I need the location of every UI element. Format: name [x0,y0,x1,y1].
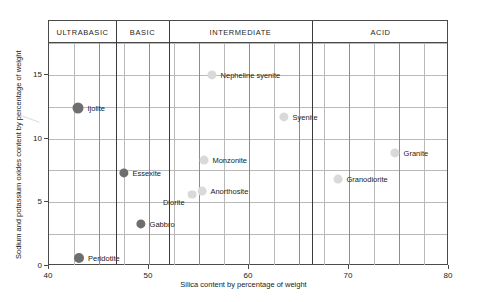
data-point-label-monzonite: Monzonite [212,156,247,165]
rock-class-band-label: ULTRABASIC [56,28,108,37]
data-point-gabbro[interactable] [136,219,145,228]
y-axis-tick [44,201,48,202]
x-axis-tick-label: 60 [244,271,253,280]
x-axis-tick [348,265,349,269]
data-point-label-nepheline-syenite: Nepheline syenite [221,70,281,79]
data-point-peridotite[interactable] [74,253,84,263]
rock-class-band-basic: BASIC [116,21,169,43]
y-axis-tick-label: 5 [24,197,42,206]
data-point-granodiorite[interactable] [334,175,343,184]
data-point-label-syenite: Syenite [293,112,318,121]
rock-class-band-ultrabasic: ULTRABASIC [49,21,116,43]
data-point-ijolite[interactable] [73,102,84,113]
rock-class-band-label: INTERMEDIATE [210,28,272,37]
rock-class-band-label: ACID [370,28,390,37]
y-axis-title: Sodium and potassium oxides content by p… [14,51,23,259]
y-axis-tick [44,138,48,139]
rock-class-divider-3 [312,21,313,264]
x-axis-tick-label: 50 [144,271,153,280]
x-axis-tick-label: 40 [44,271,53,280]
x-axis-tick [248,265,249,269]
y-axis-tick-label: 0 [24,261,42,270]
data-point-label-diorite: Diorite [163,197,185,206]
data-point-label-ijolite: Ijolite [88,103,106,112]
data-point-granite[interactable] [390,148,399,157]
data-point-anorthosite[interactable] [198,186,207,195]
data-point-label-granodiorite: Granodiorite [346,175,387,184]
rock-class-band-acid: ACID [312,21,449,43]
x-axis-tick-label: 70 [344,271,353,280]
rock-class-band-row: ULTRABASICBASICINTERMEDIATEACID [49,21,447,43]
data-point-monzonite[interactable] [200,156,209,165]
x-axis-title: Silica content by percentage of weight [0,280,487,289]
y-axis-tick [44,74,48,75]
data-point-label-gabbro: Gabbro [150,219,175,228]
x-axis-tick-label: 80 [444,271,453,280]
data-point-syenite[interactable] [279,112,288,121]
y-axis-tick [44,265,48,266]
rock-class-divider-2 [169,21,170,264]
rock-class-band-intermediate: INTERMEDIATE [169,21,312,43]
data-point-label-anorthosite: Anorthosite [210,186,248,195]
data-point-label-essexite: Essexite [133,168,161,177]
data-point-label-peridotite: Peridotite [88,254,120,263]
data-point-label-granite: Granite [404,148,429,157]
y-axis-tick-label: 10 [24,133,42,142]
x-axis-tick [148,265,149,269]
data-points-layer: PeridotiteIjoliteEssexiteGabbroDioriteAn… [49,43,447,265]
data-point-essexite[interactable] [119,168,128,177]
igneous-rock-classification-chart: ULTRABASICBASICINTERMEDIATEACID Peridoti… [0,0,487,302]
plot-area: ULTRABASICBASICINTERMEDIATEACID Peridoti… [48,20,448,265]
data-point-nepheline-syenite[interactable] [207,70,216,79]
rock-class-divider-1 [116,21,117,264]
x-axis-tick [448,265,449,269]
rock-class-band-label: BASIC [130,28,155,37]
x-axis-tick [48,265,49,269]
y-axis-tick-label: 15 [24,69,42,78]
data-point-diorite[interactable] [188,190,197,199]
